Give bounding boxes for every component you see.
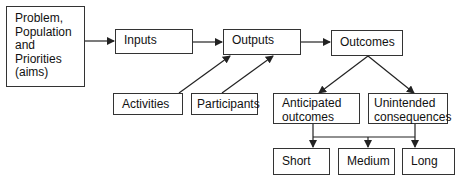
- medium-box: Medium: [338, 148, 395, 175]
- outputs-label: Outputs: [232, 33, 274, 47]
- medium-label: Medium: [347, 154, 390, 168]
- inputs-box: Inputs: [115, 29, 193, 54]
- inputs-label: Inputs: [124, 33, 157, 47]
- arrow-participants-outputs: [222, 56, 273, 93]
- participants-label: Participants: [197, 97, 260, 111]
- outcomes-label: Outcomes: [340, 35, 395, 49]
- short-box: Short: [273, 148, 330, 175]
- long-label: Long: [411, 154, 438, 168]
- arrow-outcomes-unintended: [368, 56, 414, 93]
- problem-line-1: Problem,: [15, 12, 84, 26]
- anticipated-line-1: Anticipated: [282, 97, 359, 111]
- unintended-line-2: consequences: [374, 111, 447, 125]
- outcomes-box: Outcomes: [331, 30, 403, 56]
- problem-line-5: (aims): [15, 66, 84, 80]
- arrow-activities-outputs: [179, 56, 230, 93]
- short-label: Short: [282, 154, 311, 168]
- arrow-outcomes-anticipated: [319, 56, 368, 93]
- activities-label: Activities: [122, 97, 169, 111]
- problem-line-4: Priorities: [15, 53, 84, 67]
- outputs-box: Outputs: [223, 29, 301, 55]
- long-box: Long: [402, 148, 455, 175]
- unintended-consequences-box: Unintended consequences: [368, 93, 448, 124]
- activities-box: Activities: [113, 93, 183, 115]
- problem-line-3: and: [15, 39, 84, 53]
- problem-population-priorities-box: Problem, Population and Priorities (aims…: [6, 6, 85, 87]
- participants-box: Participants: [191, 93, 258, 115]
- anticipated-outcomes-box: Anticipated outcomes: [273, 93, 360, 124]
- problem-line-2: Population: [15, 26, 84, 40]
- anticipated-line-2: outcomes: [282, 111, 359, 125]
- unintended-line-1: Unintended: [374, 97, 447, 111]
